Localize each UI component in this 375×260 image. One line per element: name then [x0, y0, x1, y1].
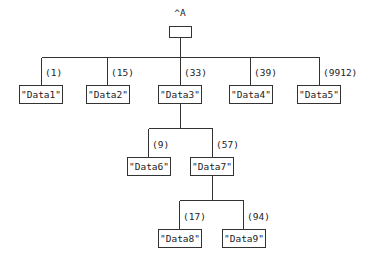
node-label: "Data9" — [224, 233, 264, 244]
node-weight: (33) — [184, 67, 207, 78]
node-label: "Data6" — [129, 161, 169, 172]
node-weight: (9912) — [323, 67, 357, 78]
node-weight: (9) — [152, 139, 169, 150]
node-label: "Data5" — [299, 89, 339, 100]
tree-node: (94)"Data9" — [223, 211, 270, 248]
root-box — [170, 27, 192, 38]
node-label: "Data1" — [21, 89, 61, 100]
tree-node: (17)"Data8" — [159, 211, 206, 248]
root-node: ^A — [170, 7, 192, 38]
tree-edges — [42, 37, 320, 229]
node-weight: (57) — [216, 139, 239, 150]
tree-node: (39)"Data4" — [230, 67, 277, 104]
node-weight: (15) — [111, 67, 134, 78]
tree-node: (15)"Data2" — [87, 67, 134, 104]
node-label: "Data2" — [88, 89, 128, 100]
node-label: "Data4" — [231, 89, 271, 100]
node-weight: (94) — [247, 211, 270, 222]
root-label: ^A — [174, 7, 186, 18]
tree-node: (9912)"Data5" — [298, 67, 358, 104]
node-weight: (17) — [183, 211, 206, 222]
tree-node: (57)"Data7" — [191, 139, 239, 176]
node-weight: (1) — [45, 67, 62, 78]
node-weight: (39) — [254, 67, 277, 78]
tree-diagram: ^A (1)"Data1"(15)"Data2"(33)"Data3"(39)"… — [0, 0, 375, 260]
node-label: "Data3" — [160, 89, 200, 100]
tree-node: (33)"Data3" — [159, 67, 207, 104]
tree-nodes: (1)"Data1"(15)"Data2"(33)"Data3"(39)"Dat… — [20, 67, 358, 248]
node-label: "Data8" — [160, 233, 200, 244]
node-label: "Data7" — [192, 161, 232, 172]
